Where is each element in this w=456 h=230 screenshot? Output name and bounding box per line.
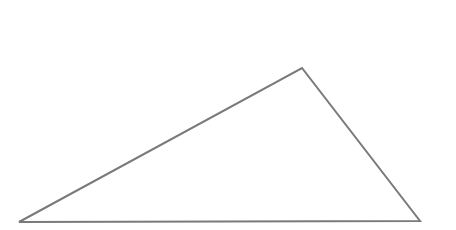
triangle-diagram [0,0,456,230]
diagram-canvas [0,0,456,230]
triangle-shape [19,68,420,222]
